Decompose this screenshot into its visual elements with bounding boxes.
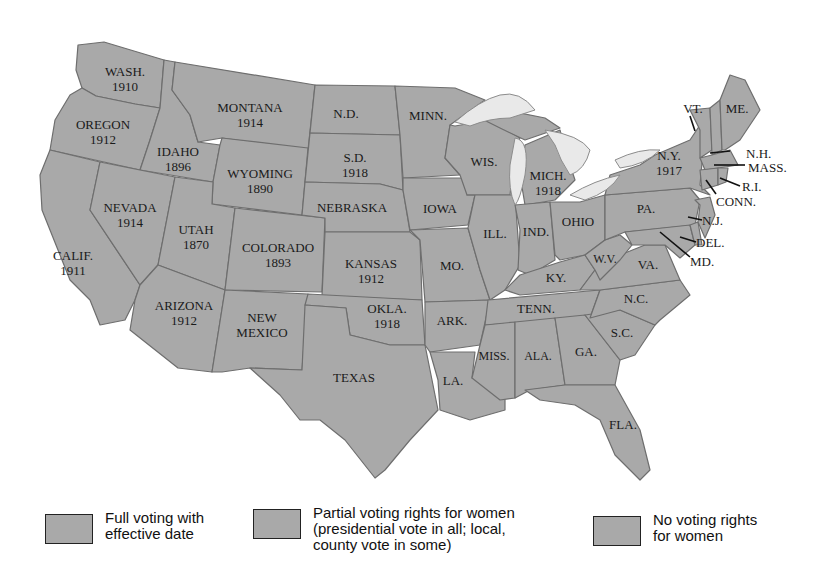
label-texas: TEXAS	[333, 370, 375, 385]
label-del: DEL.	[696, 235, 725, 250]
label-wyoming-year: 1890	[247, 181, 273, 196]
label-new-mexico-1: NEW	[247, 310, 277, 325]
legend-item-partial-voting: Partial voting rights for women (preside…	[253, 505, 515, 553]
label-oregon-year: 1912	[90, 132, 116, 147]
label-nebraska: NEBRASKA	[317, 200, 388, 215]
label-kansas: KANSAS	[345, 256, 397, 271]
label-ill: ILL.	[483, 226, 506, 241]
label-minn: MINN.	[409, 108, 447, 123]
legend-swatch-no-voting	[593, 516, 641, 546]
label-sc: S.C.	[611, 325, 633, 340]
label-new-mexico-2: MEXICO	[236, 325, 287, 340]
label-montana: MONTANA	[217, 100, 283, 115]
label-conn: CONN.	[716, 194, 756, 209]
label-ala: ALA.	[524, 349, 552, 363]
label-nc: N.C.	[624, 291, 649, 306]
map-legend: Full voting with effective date Partial …	[0, 510, 828, 568]
legend-item-full-voting: Full voting with effective date	[45, 510, 204, 544]
label-tenn: TENN.	[517, 301, 555, 316]
label-me: ME.	[726, 101, 749, 116]
label-mo: MO.	[440, 258, 464, 273]
label-wyoming: WYOMING	[227, 166, 293, 181]
label-wash-year: 1910	[112, 79, 138, 94]
label-wv: W.V.	[593, 252, 616, 266]
label-nevada: NEVADA	[103, 200, 157, 215]
label-ri: R.I.	[742, 179, 762, 194]
label-sd-year: 1918	[342, 165, 368, 180]
state-rhode-island	[718, 168, 728, 185]
label-mass: MASS.	[748, 160, 787, 175]
label-wash: WASH.	[105, 64, 145, 79]
label-nevada-year: 1914	[117, 215, 144, 230]
label-mich-year: 1918	[535, 183, 561, 198]
label-arizona-year: 1912	[171, 313, 197, 328]
label-ark: ARK.	[437, 313, 468, 328]
label-utah-year: 1870	[183, 237, 209, 252]
legend-swatch-full-voting	[45, 514, 93, 544]
label-nd: N.D.	[333, 106, 358, 121]
label-montana-year: 1914	[237, 115, 264, 130]
label-ind: IND.	[523, 224, 549, 239]
label-ohio: OHIO	[562, 214, 595, 229]
label-iowa: IOWA	[423, 201, 458, 216]
label-wis: WIS.	[470, 154, 497, 169]
label-okla: OKLA.	[367, 301, 406, 316]
label-nj: N.J.	[702, 213, 723, 228]
label-oregon: OREGON	[76, 117, 131, 132]
label-vt: VT.	[683, 101, 703, 116]
label-fla: FLA.	[609, 417, 637, 432]
label-ga: GA.	[575, 344, 597, 359]
label-idaho-year: 1896	[165, 159, 192, 174]
label-ky: KY.	[546, 270, 566, 285]
label-idaho: IDAHO	[157, 144, 199, 159]
state-connecticut	[700, 168, 718, 190]
label-ny: N.Y.	[657, 148, 681, 163]
legend-label-no-voting: No voting rights for women	[653, 512, 757, 544]
state-florida	[525, 385, 650, 480]
us-suffrage-map: WASH. 1910 OREGON 1912 CALIF. 1911 IDAHO…	[0, 0, 828, 568]
legend-swatch-partial-voting	[253, 509, 301, 539]
label-arizona: ARIZONA	[155, 298, 214, 313]
label-calif-year: 1911	[60, 263, 86, 278]
label-colorado: COLORADO	[242, 240, 314, 255]
legend-item-no-voting: No voting rights for women	[593, 512, 757, 546]
label-nh: N.H.	[746, 146, 771, 161]
legend-label-full-voting: Full voting with effective date	[105, 510, 204, 542]
label-md: MD.	[690, 254, 714, 269]
label-pa: PA.	[637, 201, 656, 216]
label-okla-year: 1918	[374, 316, 400, 331]
label-utah: UTAH	[178, 222, 213, 237]
label-colorado-year: 1893	[265, 255, 291, 270]
legend-label-partial-voting: Partial voting rights for women (preside…	[313, 505, 515, 553]
label-sd: S.D.	[343, 150, 366, 165]
label-calif: CALIF.	[53, 248, 93, 263]
label-la: LA.	[443, 373, 464, 388]
label-ny-year: 1917	[656, 163, 683, 178]
label-miss: MISS.	[478, 349, 509, 363]
label-mich: MICH.	[529, 168, 566, 183]
label-kansas-year: 1912	[358, 271, 384, 286]
label-va: VA.	[638, 257, 658, 272]
